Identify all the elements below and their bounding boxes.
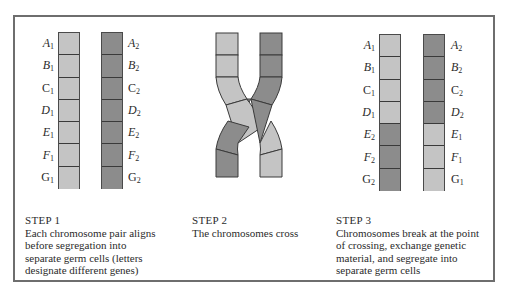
gene-label: F1 xyxy=(451,150,462,168)
step2-title: STEP 2 xyxy=(192,214,298,227)
chromosome-segment xyxy=(380,102,400,124)
chromosome-segment xyxy=(424,146,444,168)
chromosome-segment xyxy=(380,57,400,79)
step3-chromosome-1 xyxy=(379,34,401,191)
gene-label: C2 xyxy=(128,81,140,99)
chromosome-segment xyxy=(380,124,400,146)
step3-chromosome-2 xyxy=(423,34,445,191)
chromosome-segment xyxy=(102,33,122,55)
gene-label: F2 xyxy=(128,148,139,166)
gene-label: F1 xyxy=(43,148,54,166)
chromosome-segment xyxy=(102,100,122,122)
gene-label: D1 xyxy=(362,105,375,123)
gene-label: C2 xyxy=(451,83,463,101)
step1-line: designate different genes) xyxy=(25,264,155,277)
chromosome-segment xyxy=(102,78,122,100)
chromosome-segment xyxy=(424,80,444,102)
chromosome-segment xyxy=(424,102,444,124)
gene-label: A2 xyxy=(451,38,462,56)
gene-label: C1 xyxy=(42,81,54,99)
gene-label: G2 xyxy=(128,170,141,188)
step1-line: separate germ cells (letters xyxy=(25,252,155,265)
chromosome-segment xyxy=(59,122,79,144)
step2-line: The chromosomes cross xyxy=(192,227,298,240)
step3-line: separate germ cells xyxy=(336,264,479,277)
gene-label: G2 xyxy=(362,172,375,190)
gene-label: D1 xyxy=(41,103,54,121)
chromosome-segment xyxy=(424,57,444,79)
gene-label: E1 xyxy=(43,125,54,143)
step2-crossing-chromosomes xyxy=(205,25,295,185)
chromosome-segment xyxy=(424,124,444,146)
gene-label: E2 xyxy=(128,125,139,143)
chromosome-segment xyxy=(102,144,122,166)
chromosome-segment xyxy=(59,55,79,77)
gene-label: E1 xyxy=(451,127,462,145)
chromosome-segment xyxy=(102,167,122,189)
step3-line: Chromosomes break at the point xyxy=(336,227,479,240)
chromosome-segment xyxy=(380,80,400,102)
step1-line: before segregation into xyxy=(25,239,155,252)
gene-label: A2 xyxy=(128,36,139,54)
chromosome-segment xyxy=(102,55,122,77)
chromosome-segment xyxy=(59,33,79,55)
gene-label: E2 xyxy=(364,127,375,145)
gene-label: F2 xyxy=(364,150,375,168)
step1-caption: STEP 1 Each chromosome pair aligns befor… xyxy=(25,214,155,277)
step3-line: of crossing, exchange genetic xyxy=(336,239,479,252)
step3-caption: STEP 3 Chromosomes break at the point of… xyxy=(336,214,479,277)
step1-line: Each chromosome pair aligns xyxy=(25,227,155,240)
gene-label: A1 xyxy=(364,38,375,56)
chromosome-segment xyxy=(380,169,400,191)
gene-label: G1 xyxy=(451,172,464,190)
gene-label: C1 xyxy=(363,83,375,101)
gene-label: A1 xyxy=(43,36,54,54)
chromosome-segment xyxy=(424,35,444,57)
gene-label: B1 xyxy=(43,58,54,76)
chromosome-segment xyxy=(59,100,79,122)
chromosome-segment xyxy=(380,146,400,168)
step3-title: STEP 3 xyxy=(336,214,479,227)
step1-title: STEP 1 xyxy=(25,214,155,227)
gene-label: D2 xyxy=(128,103,141,121)
chromosome-segment xyxy=(59,78,79,100)
chromosome-segment xyxy=(102,122,122,144)
gene-label: D2 xyxy=(451,105,464,123)
step1-chromosome-1 xyxy=(58,32,80,189)
chromosome-segment xyxy=(380,35,400,57)
gene-label: B1 xyxy=(364,60,375,78)
step1-chromosome-2 xyxy=(101,32,123,189)
chromosome-segment xyxy=(59,144,79,166)
chromosome-segment xyxy=(59,167,79,189)
step3-line: material, and segregate into xyxy=(336,252,479,265)
gene-label: B2 xyxy=(451,60,462,78)
gene-label: B2 xyxy=(128,58,139,76)
chromosome-segment xyxy=(424,169,444,191)
gene-label: G1 xyxy=(41,170,54,188)
step2-caption: STEP 2 The chromosomes cross xyxy=(192,214,298,239)
